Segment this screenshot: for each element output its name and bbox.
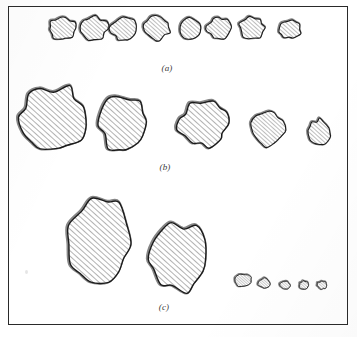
row-label-c: (c) [159,302,170,312]
figure-frame-border [8,6,348,325]
row-label-a: (a) [161,63,172,73]
figure-page: (a) (b) (c) [0,0,357,337]
row-label-b: (b) [159,162,170,172]
scan-speck-1 [25,270,28,274]
